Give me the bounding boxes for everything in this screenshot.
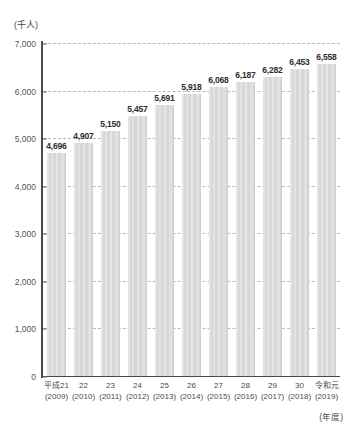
bar[interactable]	[101, 131, 120, 376]
bar-value-label: 4,907	[73, 131, 93, 141]
bar-value-label: 4,696	[46, 141, 66, 151]
bar-column[interactable]: 4,907	[74, 43, 93, 376]
y-axis-unit-label: (千人)	[14, 18, 38, 31]
bar[interactable]	[74, 143, 93, 376]
x-label-era: 30	[286, 380, 313, 391]
y-axis-tick-label: 2,000	[15, 277, 36, 287]
x-label-gregorian: (2016)	[232, 391, 259, 402]
y-axis-tick-mark	[43, 377, 47, 378]
bar-column[interactable]: 6,187	[236, 43, 255, 376]
x-label-era: 26	[178, 380, 205, 391]
bar[interactable]	[47, 153, 66, 376]
y-axis-tick-label: 3,000	[15, 229, 36, 239]
bar[interactable]	[236, 82, 255, 376]
x-axis-labels-group: 平成21(2009)22(2010)23(2011)24(2012)25(201…	[43, 380, 340, 410]
y-axis-tick-label: 0	[31, 372, 36, 382]
bar-column[interactable]: 4,696	[47, 43, 66, 376]
bar-column[interactable]: 5,150	[101, 43, 120, 376]
x-label-gregorian: (2009)	[43, 391, 70, 402]
x-label-era: 令和元	[313, 380, 340, 391]
x-label-era: 29	[259, 380, 286, 391]
bar[interactable]	[290, 69, 309, 376]
bar[interactable]	[182, 94, 201, 376]
y-axis-tick-label: 5,000	[15, 134, 36, 144]
bar-value-label: 6,558	[316, 52, 336, 62]
x-label-era: 25	[151, 380, 178, 391]
plot-area: 7,0006,0005,0004,0003,0002,0001,0000 4,6…	[43, 43, 340, 376]
x-label-gregorian: (2011)	[97, 391, 124, 402]
x-axis-tick-label: 25(2013)	[151, 380, 178, 402]
bar-value-label: 5,457	[127, 104, 147, 114]
axis-baseline: 0	[43, 376, 340, 377]
x-label-gregorian: (2019)	[313, 391, 340, 402]
bar-column[interactable]: 5,691	[155, 43, 174, 376]
x-label-era: 28	[232, 380, 259, 391]
x-label-gregorian: (2012)	[124, 391, 151, 402]
x-label-era: 23	[97, 380, 124, 391]
y-axis-tick-label: 4,000	[15, 182, 36, 192]
x-axis-tick-label: 23(2011)	[97, 380, 124, 402]
x-label-gregorian: (2014)	[178, 391, 205, 402]
x-label-era: 22	[70, 380, 97, 391]
x-axis-tick-label: 27(2015)	[205, 380, 232, 402]
x-axis-tick-label: 22(2010)	[70, 380, 97, 402]
bar-value-label: 6,187	[235, 70, 255, 80]
bar[interactable]	[155, 105, 174, 376]
x-axis-tick-label: 平成21(2009)	[43, 380, 70, 402]
x-axis-tick-label: 令和元(2019)	[313, 380, 340, 402]
y-axis-line	[41, 41, 43, 378]
x-label-gregorian: (2013)	[151, 391, 178, 402]
x-axis-tick-label: 24(2012)	[124, 380, 151, 402]
x-label-era: 27	[205, 380, 232, 391]
y-axis-tick-label: 1,000	[15, 324, 36, 334]
x-axis-tick-label: 28(2016)	[232, 380, 259, 402]
x-label-gregorian: (2017)	[259, 391, 286, 402]
x-label-gregorian: (2015)	[205, 391, 232, 402]
x-axis-caption: (年度)	[319, 410, 343, 422]
bar-value-label: 5,918	[181, 82, 201, 92]
bar-column[interactable]: 5,457	[128, 43, 147, 376]
bar-value-label: 5,150	[100, 119, 120, 129]
bar[interactable]	[263, 77, 282, 376]
x-axis-tick-label: 29(2017)	[259, 380, 286, 402]
x-label-gregorian: (2010)	[70, 391, 97, 402]
y-axis-tick-label: 7,000	[15, 39, 36, 49]
bar-column[interactable]: 5,918	[182, 43, 201, 376]
x-label-era: 平成21	[43, 380, 70, 391]
bar-value-label: 5,691	[154, 93, 174, 103]
bar[interactable]	[128, 116, 147, 376]
bar-column[interactable]: 6,282	[263, 43, 282, 376]
bar[interactable]	[209, 87, 228, 376]
bar[interactable]	[317, 64, 336, 376]
bars-group: 4,6964,9075,1505,4575,6915,9186,0686,187…	[43, 43, 340, 376]
x-axis-tick-label: 26(2014)	[178, 380, 205, 402]
bar-value-label: 6,453	[289, 57, 309, 67]
bar-column[interactable]: 6,068	[209, 43, 228, 376]
x-label-era: 24	[124, 380, 151, 391]
bar-value-label: 6,282	[262, 65, 282, 75]
bar-column[interactable]: 6,558	[317, 43, 336, 376]
x-label-gregorian: (2018)	[286, 391, 313, 402]
x-axis-tick-label: 30(2018)	[286, 380, 313, 402]
bar-chart-figure: (千人) 7,0006,0005,0004,0003,0002,0001,000…	[0, 0, 355, 436]
bar-column[interactable]: 6,453	[290, 43, 309, 376]
y-axis-tick-label: 6,000	[15, 87, 36, 97]
bar-value-label: 6,068	[208, 75, 228, 85]
